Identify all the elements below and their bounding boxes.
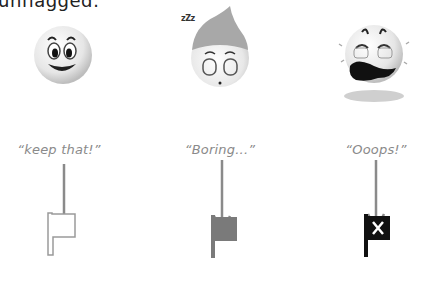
outline-flag-icon [46, 211, 80, 257]
column-oops: “Ooops!” [296, 0, 424, 281]
caption-keep: “keep that!” [0, 142, 129, 157]
column-boring: zZz “Boring...” [152, 0, 292, 281]
sleeping-face-icon [188, 6, 252, 90]
caption-boring: “Boring...” [150, 142, 290, 157]
gray-flag-icon [209, 214, 239, 260]
black-x-flag-icon [362, 213, 392, 259]
crying-face-icon [336, 16, 412, 106]
column-keep: “keep that!” [2, 0, 142, 281]
caption-oops: “Ooops!” [306, 142, 424, 157]
happy-face-icon [30, 22, 96, 88]
